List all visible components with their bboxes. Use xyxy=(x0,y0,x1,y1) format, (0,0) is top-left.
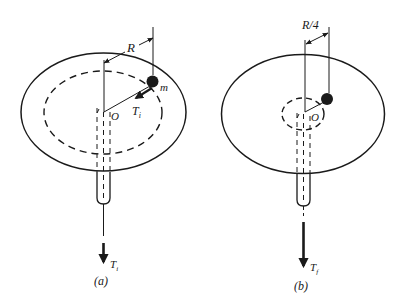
radius-label-b: R/4 xyxy=(301,18,319,32)
tube-hidden-b xyxy=(297,113,310,204)
mass-b xyxy=(321,93,333,105)
rotating-mass-diagram: R m Ti O Ti (a) xyxy=(0,0,396,302)
radius-dimension-a-right xyxy=(139,38,153,45)
string-to-mass-a xyxy=(104,86,150,112)
pull-label-a: Ti xyxy=(110,258,118,273)
caption-a: (a) xyxy=(94,274,108,288)
center-label-a: O xyxy=(111,110,119,122)
radius-label-a: R xyxy=(126,40,135,55)
caption-b: (b) xyxy=(294,279,308,293)
tension-label-a: Ti xyxy=(132,104,141,120)
radius-dimension-b xyxy=(306,33,328,44)
center-label-b: O xyxy=(311,111,319,123)
panel-b: R/4 O Tf (b) xyxy=(222,18,385,293)
pull-label-b: Tf xyxy=(310,261,319,276)
mass-label-a: m xyxy=(160,81,168,93)
mass-a xyxy=(147,76,159,88)
panel-a: R m Ti O Ti (a) xyxy=(21,27,186,288)
